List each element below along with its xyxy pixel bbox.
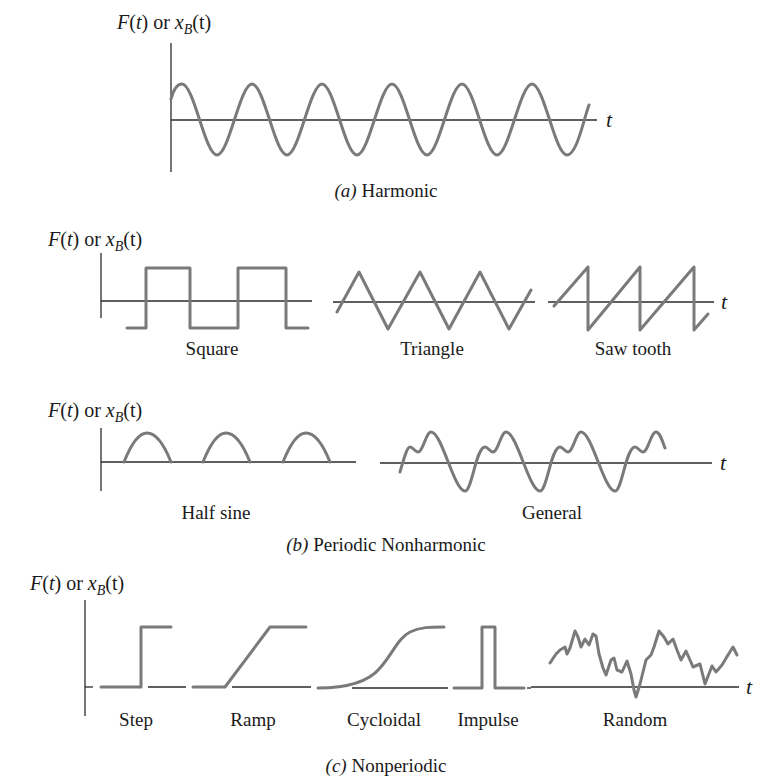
ramp-wave <box>193 627 306 687</box>
half-sine-wave <box>124 433 330 462</box>
label-ramp: Ramp <box>230 709 275 730</box>
label-random: Random <box>603 709 668 730</box>
label-step: Step <box>119 709 153 730</box>
caption-periodic-nonharmonic: (b) Periodic Nonharmonic <box>286 534 485 556</box>
time-axis-label: t <box>746 674 753 699</box>
y-axis-label: F(t) or xB(t) <box>29 572 124 598</box>
label-cycloidal: Cycloidal <box>347 709 421 730</box>
general-periodic-wave <box>400 432 665 491</box>
label-half-sine: Half sine <box>181 502 250 523</box>
label-triangle: Triangle <box>400 338 464 359</box>
triangle-wave <box>337 272 531 329</box>
step-wave <box>101 627 171 687</box>
label-general: General <box>522 502 582 523</box>
y-axis-label: F(t) or xB(t) <box>47 228 142 254</box>
y-axis-label: F(t) or xB(t) <box>116 11 211 37</box>
panel-harmonic: F(t) or xB(t) t (a) Harmonic <box>116 11 613 202</box>
panel-periodic-row2: F(t) or xB(t) Half sine t General (b) Pe… <box>47 399 727 556</box>
panel-periodic-row1: F(t) or xB(t) Square Triangle t Saw toot… <box>47 228 728 359</box>
label-saw-tooth: Saw tooth <box>595 338 672 359</box>
time-axis-label: t <box>721 289 728 314</box>
caption-harmonic: (a) Harmonic <box>335 180 438 202</box>
impulse-wave <box>454 627 524 688</box>
label-square: Square <box>186 338 239 359</box>
sawtooth-wave <box>554 267 708 330</box>
panel-nonperiodic: F(t) or xB(t) t Step Ramp Cycloidal Impu… <box>29 572 753 777</box>
time-axis-label: t <box>606 107 613 132</box>
cycloidal-wave <box>318 627 444 688</box>
label-impulse: Impulse <box>457 709 518 730</box>
time-axis-label: t <box>720 450 727 475</box>
caption-nonperiodic: (c) Nonperiodic <box>326 755 447 777</box>
y-axis-label: F(t) or xB(t) <box>47 399 142 425</box>
excitation-types-figure: F(t) or xB(t) t (a) Harmonic F(t) or xB(… <box>0 0 774 783</box>
square-wave <box>127 268 308 328</box>
